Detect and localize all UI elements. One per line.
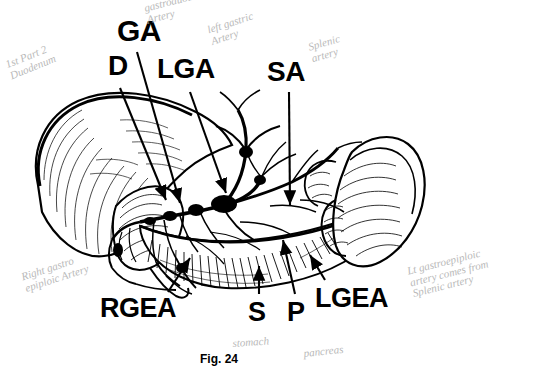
label-s: S — [248, 299, 266, 326]
label-rgea: RGEA — [100, 295, 176, 322]
figure-caption: Fig. 24 — [200, 352, 238, 366]
label-lgea: LGEA — [315, 285, 388, 312]
label-d: D — [108, 52, 128, 80]
label-sa: SA — [267, 58, 305, 86]
label-lga: LGA — [157, 55, 215, 83]
label-p: P — [287, 299, 305, 326]
arrow-SA — [289, 92, 290, 205]
